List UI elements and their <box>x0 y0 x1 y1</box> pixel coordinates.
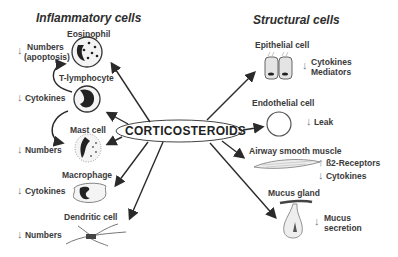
macrophage-effect: ↓ Cytokines <box>17 185 66 196</box>
smooth-muscle-icon <box>254 160 320 169</box>
t-lymphocyte-label: T-lymphocyte <box>59 73 114 83</box>
down-arrow-icon: ↓ <box>318 169 324 181</box>
down-arrow-icon: ↓ <box>302 60 308 70</box>
down-arrow-icon: ↓ <box>306 115 312 127</box>
t-lymphocyte-effect: ↓ Cytokines <box>17 92 66 103</box>
mucus-gland-label: Mucus gland <box>268 188 320 198</box>
mucus-gland-effect: ↓ Mucus secretion <box>314 213 362 233</box>
eosinophil-effect: ↓ Numbers (apoptosis) <box>17 42 70 62</box>
down-arrow-icon: ↓ <box>17 228 23 240</box>
epithelial-cell-effect: ↓ Cytokines Mediators <box>302 57 352 77</box>
down-arrow-icon: ↓ <box>17 91 23 103</box>
epithelial-cell-icon <box>265 52 292 79</box>
macrophage-icon <box>73 183 106 202</box>
mucus-gland-icon <box>280 201 312 238</box>
smooth-muscle-label: Airway smooth muscle <box>249 146 342 156</box>
eosinophil-label: Eosinophil <box>67 29 110 39</box>
mast-cell-icon <box>75 134 101 162</box>
eosinophil-icon <box>72 37 102 67</box>
down-arrow-icon: ↓ <box>17 45 23 55</box>
endothelial-cell-icon <box>267 112 291 136</box>
mast-cell-label: Mast cell <box>70 125 106 135</box>
center-label: CORTICOSTEROIDS <box>125 124 246 138</box>
inflammatory-cells-title: Inflammatory cells <box>36 11 141 25</box>
mast-cell-effect: ↓ Numbers <box>17 144 62 155</box>
smooth-muscle-effect: ↑ ß2-Receptors ↓ Cytokines <box>318 157 380 181</box>
endothelial-cell-effect: ↓ Leak <box>306 116 333 127</box>
macrophage-label: Macrophage <box>62 170 112 180</box>
dendritic-cell-icon <box>66 224 126 246</box>
t-lymphocyte-icon <box>74 86 100 112</box>
down-arrow-icon: ↓ <box>17 184 23 196</box>
up-arrow-icon: ↑ <box>318 156 324 168</box>
dendritic-cell-effect: ↓ Numbers <box>17 229 62 240</box>
endothelial-cell-label: Endothelial cell <box>252 98 314 108</box>
down-arrow-icon: ↓ <box>314 216 320 226</box>
down-arrow-icon: ↓ <box>17 143 23 155</box>
epithelial-cell-label: Epithelial cell <box>255 40 309 50</box>
dendritic-cell-label: Dendritic cell <box>64 212 117 222</box>
structural-cells-title: Structural cells <box>253 13 340 27</box>
